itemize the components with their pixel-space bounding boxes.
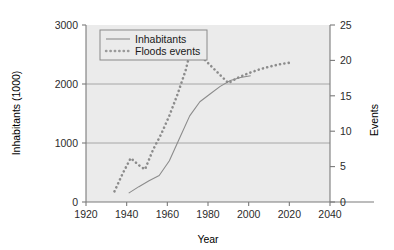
x-tick-label: 2020 <box>278 208 302 220</box>
y-right-tick-label: 20 <box>340 54 352 66</box>
y-left-tick-label: 2000 <box>55 78 79 90</box>
x-tick-label: 2000 <box>237 208 261 220</box>
y-right-tick-label: 0 <box>340 196 346 208</box>
x-tick-label: 1920 <box>74 208 98 220</box>
y-left-tick-label: 1000 <box>55 137 79 149</box>
y-left-tick-label: 0 <box>72 196 78 208</box>
y-left-axis-ticks <box>82 25 86 202</box>
y-right-axis-tick-labels: 0510152025 <box>340 19 352 208</box>
legend-label-inhabitants: Inhabitants <box>135 33 186 45</box>
y-left-tick-label: 3000 <box>55 19 79 31</box>
y-right-tick-label: 15 <box>340 90 352 102</box>
legend-label-floods-events: Floods events <box>135 45 200 57</box>
inhabitants-floods-line-chart: 1920194019601980200020202040 01000200030… <box>0 0 394 250</box>
y-right-axis-title: Events <box>368 104 380 136</box>
chart-figure: 1920194019601980200020202040 01000200030… <box>0 0 394 250</box>
x-tick-label: 1960 <box>156 208 180 220</box>
x-axis-ticks <box>86 202 330 206</box>
y-left-axis-tick-labels: 0100020003000 <box>55 19 79 208</box>
x-tick-label: 2040 <box>318 208 342 220</box>
y-right-axis-ticks <box>330 25 335 202</box>
x-axis-tick-labels: 1920194019601980200020202040 <box>74 208 342 220</box>
y-right-tick-label: 25 <box>340 19 352 31</box>
y-left-axis-title: Inhabitants (1000) <box>10 71 22 156</box>
chart-legend: Inhabitants Floods events <box>100 30 207 60</box>
y-right-tick-label: 5 <box>340 160 346 172</box>
x-axis-title: Year <box>197 233 219 245</box>
y-right-tick-label: 10 <box>340 125 352 137</box>
x-tick-label: 1980 <box>196 208 220 220</box>
x-tick-label: 1940 <box>115 208 139 220</box>
